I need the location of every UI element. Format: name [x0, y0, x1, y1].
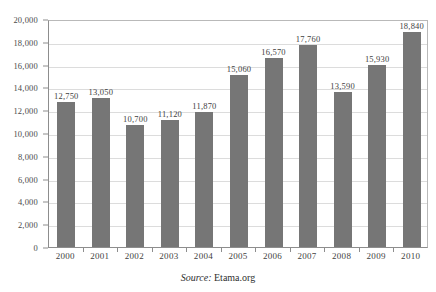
- x-tick-mark: [221, 248, 222, 252]
- source-label: Source:: [181, 272, 212, 283]
- y-tick-label: 12,000: [13, 107, 38, 116]
- y-tick-label: 18,000: [13, 39, 38, 48]
- bar-value-label: 15,930: [355, 55, 399, 64]
- bar-value-label: 18,840: [390, 22, 434, 31]
- bar-value-label: 11,120: [148, 110, 192, 119]
- bar[interactable]: [334, 92, 352, 247]
- x-tick-label: 2010: [391, 252, 431, 261]
- bar[interactable]: [299, 45, 317, 247]
- bar-value-label: 16,570: [252, 48, 296, 57]
- y-axis: 20,00018,00016,00014,00012,00010,0008,00…: [0, 20, 44, 248]
- y-tick-label: 8,000: [18, 153, 38, 162]
- bar-value-label: 13,590: [321, 82, 365, 91]
- y-tick-label: 4,000: [18, 198, 38, 207]
- y-tick-label: 2,000: [18, 221, 38, 230]
- x-axis: 2000200120022003200420052006200720082009…: [48, 252, 428, 268]
- y-tick-label: 6,000: [18, 175, 38, 184]
- plot-area: 12,75013,05010,70011,12011,87015,06016,5…: [48, 20, 428, 248]
- y-tick-label: 10,000: [13, 130, 38, 139]
- x-tick-mark: [186, 248, 187, 252]
- y-tick-label: 20,000: [13, 16, 38, 25]
- gridline: [49, 44, 427, 45]
- bar[interactable]: [403, 32, 421, 247]
- y-tick-label: 16,000: [13, 61, 38, 70]
- bar[interactable]: [195, 112, 213, 247]
- bar-value-label: 15,060: [217, 65, 261, 74]
- bar[interactable]: [57, 102, 75, 247]
- bar[interactable]: [368, 65, 386, 247]
- bar-value-label: 17,760: [286, 35, 330, 44]
- source-value: Etama.org: [214, 272, 255, 283]
- bar[interactable]: [230, 75, 248, 247]
- y-tick-label: 0: [34, 244, 38, 253]
- bar-value-label: 13,050: [79, 88, 123, 97]
- bar-chart-figure: 20,00018,00016,00014,00012,00010,0008,00…: [0, 0, 436, 292]
- x-tick-mark: [83, 248, 84, 252]
- x-tick-mark: [152, 248, 153, 252]
- bar-value-label: 11,870: [182, 102, 226, 111]
- x-tick-mark: [324, 248, 325, 252]
- bar[interactable]: [92, 98, 110, 247]
- x-tick-mark: [290, 248, 291, 252]
- x-tick-mark: [255, 248, 256, 252]
- x-tick-mark: [359, 248, 360, 252]
- y-tick-label: 14,000: [13, 84, 38, 93]
- x-tick-mark: [117, 248, 118, 252]
- source-note: Source: Etama.org: [0, 272, 436, 283]
- chart-title: [0, 0, 436, 4]
- bar[interactable]: [265, 58, 283, 247]
- x-tick-mark: [393, 248, 394, 252]
- bar[interactable]: [126, 125, 144, 247]
- bar[interactable]: [161, 120, 179, 247]
